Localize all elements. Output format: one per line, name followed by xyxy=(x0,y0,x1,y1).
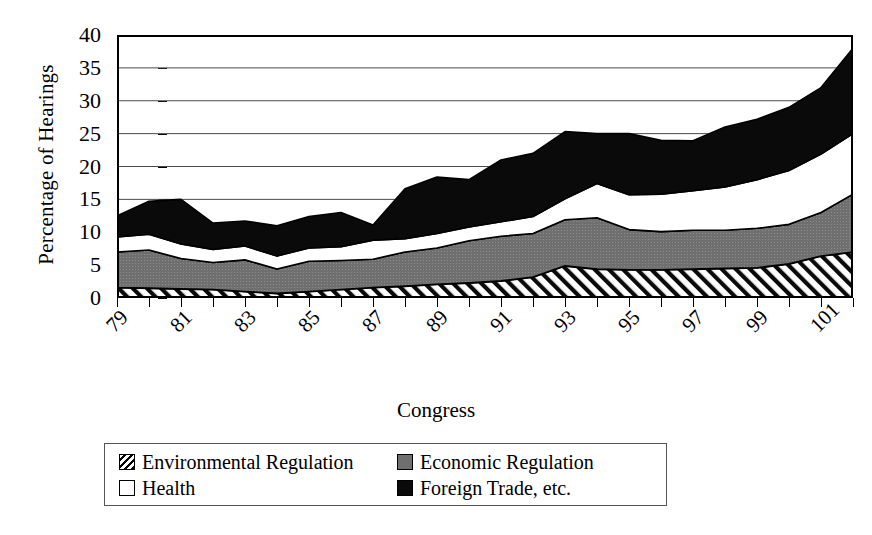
chart-legend: Environmental RegulationEconomic Regulat… xyxy=(104,443,667,506)
x-tick-mark xyxy=(597,298,598,307)
stacked-areas xyxy=(117,48,853,298)
x-tick-mark xyxy=(533,298,534,307)
y-tick-label: 40 xyxy=(49,24,101,46)
plot-area xyxy=(117,35,853,298)
hatch-swatch-icon xyxy=(119,454,135,470)
x-tick-label: 101 xyxy=(805,298,845,338)
y-tick-label: 25 xyxy=(49,123,101,145)
y-tick-mark xyxy=(158,298,167,299)
y-tick-label: 5 xyxy=(49,254,101,276)
legend-label: Foreign Trade, etc. xyxy=(420,477,571,500)
white-swatch-icon xyxy=(119,480,135,496)
x-tick-mark xyxy=(213,298,214,307)
gray-swatch-icon xyxy=(397,454,413,470)
y-tick-label: 15 xyxy=(49,188,101,210)
x-tick-label: 91 xyxy=(485,305,518,338)
x-tick-label: 79 xyxy=(101,305,134,338)
x-tick-label: 87 xyxy=(357,305,390,338)
legend-label: Economic Regulation xyxy=(420,451,594,474)
x-axis-title: Congress xyxy=(0,398,872,423)
x-tick-label: 99 xyxy=(741,305,774,338)
x-tick-label: 97 xyxy=(677,305,710,338)
area-series-canvas xyxy=(117,35,853,298)
y-tick-label: 0 xyxy=(49,287,101,309)
legend-item[interactable]: Environmental Regulation xyxy=(119,451,397,474)
y-tick-label: 35 xyxy=(49,57,101,79)
black-swatch-icon xyxy=(397,480,413,496)
stacked-area-chart: Percentage of Hearings 0510152025303540 … xyxy=(0,0,872,535)
legend-label: Health xyxy=(142,477,195,500)
x-tick-mark xyxy=(277,298,278,307)
y-tick-label: 20 xyxy=(49,156,101,178)
x-tick-mark xyxy=(725,298,726,307)
x-tick-label: 93 xyxy=(549,305,582,338)
x-tick-label: 85 xyxy=(293,305,326,338)
y-tick-label: 10 xyxy=(49,221,101,243)
x-tick-mark xyxy=(469,298,470,307)
x-tick-mark xyxy=(149,298,150,307)
legend-item[interactable]: Foreign Trade, etc. xyxy=(397,477,659,500)
x-tick-label: 81 xyxy=(165,305,198,338)
x-tick-label: 89 xyxy=(421,305,454,338)
x-tick-mark xyxy=(853,298,854,307)
y-tick-label: 30 xyxy=(49,90,101,112)
x-tick-label: 95 xyxy=(613,305,646,338)
legend-label: Environmental Regulation xyxy=(142,451,354,474)
legend-item[interactable]: Health xyxy=(119,477,397,500)
legend-item[interactable]: Economic Regulation xyxy=(397,451,659,474)
x-tick-mark xyxy=(789,298,790,307)
y-axis-tick-labels: 0510152025303540 xyxy=(49,0,101,330)
x-tick-mark xyxy=(341,298,342,307)
x-tick-mark xyxy=(661,298,662,307)
x-tick-label: 83 xyxy=(229,305,262,338)
x-tick-mark xyxy=(405,298,406,307)
